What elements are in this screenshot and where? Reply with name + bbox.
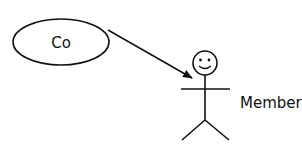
use-case-co[interactable]: Co (13, 19, 109, 65)
left-eye-icon (199, 59, 202, 62)
stick-figure-icon (181, 51, 230, 140)
actor-head-icon (193, 51, 217, 75)
actor-left-leg (182, 120, 205, 140)
actor-label: Member (240, 94, 302, 112)
actor-right-leg (205, 120, 229, 140)
association-arrow (108, 30, 192, 78)
use-case-label: Co (51, 34, 71, 52)
right-eye-icon (208, 59, 211, 62)
actor-member[interactable]: Member (181, 51, 302, 140)
use-case-diagram: Co Member (0, 0, 302, 147)
